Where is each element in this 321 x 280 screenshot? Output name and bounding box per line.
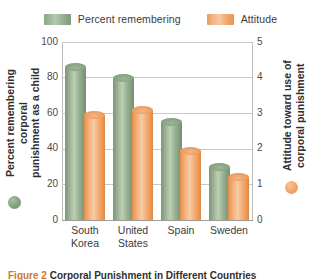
bar-group-united-states [110,42,158,220]
bar-attitude-spain [180,151,201,220]
bar-cap-icon [228,173,249,181]
figure-number: Figure 2 [8,270,47,280]
bar-cap-icon [132,106,153,114]
bar-percent-remembering-united-states [113,78,134,220]
right-tick-2: 2 [257,142,279,153]
bar-cap-icon [113,74,134,82]
corporal-punishment-bar-chart: Percent remembering Attitude Percent rem… [0,0,321,280]
left-axis-series-dot-icon [8,196,21,209]
bar-group-spain [158,42,206,220]
bar-attitude-sweden [228,177,249,220]
right-tick-5: 5 [257,36,279,47]
right-axis-title: Attitude toward use of corporal punishme… [281,48,306,184]
plot-area [62,42,252,220]
bar-attitude-south-korea [84,115,105,220]
bar-percent-remembering-south-korea [65,67,86,220]
left-tick-100: 100 [32,36,58,47]
category-label-sweden: Sweden [198,224,260,237]
figure-caption-text: Corporal Punishment in Different Countri… [50,270,257,280]
bottom-axis-line [62,220,253,221]
legend-label-percent-remembering: Percent remembering [78,13,181,25]
bar-percent-remembering-spain [161,122,182,220]
bar-cap-icon [65,63,86,71]
right-tick-0: 0 [257,214,279,225]
left-tick-20: 20 [32,178,58,189]
figure-caption: Figure 2 Corporal Punishment in Differen… [8,270,321,280]
legend-item-percent-remembering: Percent remembering [44,13,181,25]
right-tick-3: 3 [257,107,279,118]
right-axis-tick-labels: 5 4 3 2 1 0 [257,0,281,280]
bar-cap-icon [161,118,182,126]
bar-cap-icon [180,147,201,155]
left-tick-40: 40 [32,142,58,153]
legend-swatch-orange [207,14,234,25]
right-axis-series-dot-icon [285,181,298,194]
bar-cap-icon [209,163,230,171]
right-tick-4: 4 [257,71,279,82]
left-tick-60: 60 [32,107,58,118]
bar-cap-icon [84,111,105,119]
bar-group-south-korea [62,42,110,220]
category-axis-labels: South Korea United States Spain Sweden [62,224,252,258]
bar-percent-remembering-sweden [209,167,230,220]
right-tick-1: 1 [257,178,279,189]
left-tick-80: 80 [32,71,58,82]
bar-attitude-united-states [132,110,153,220]
bar-group-sweden [206,42,254,220]
